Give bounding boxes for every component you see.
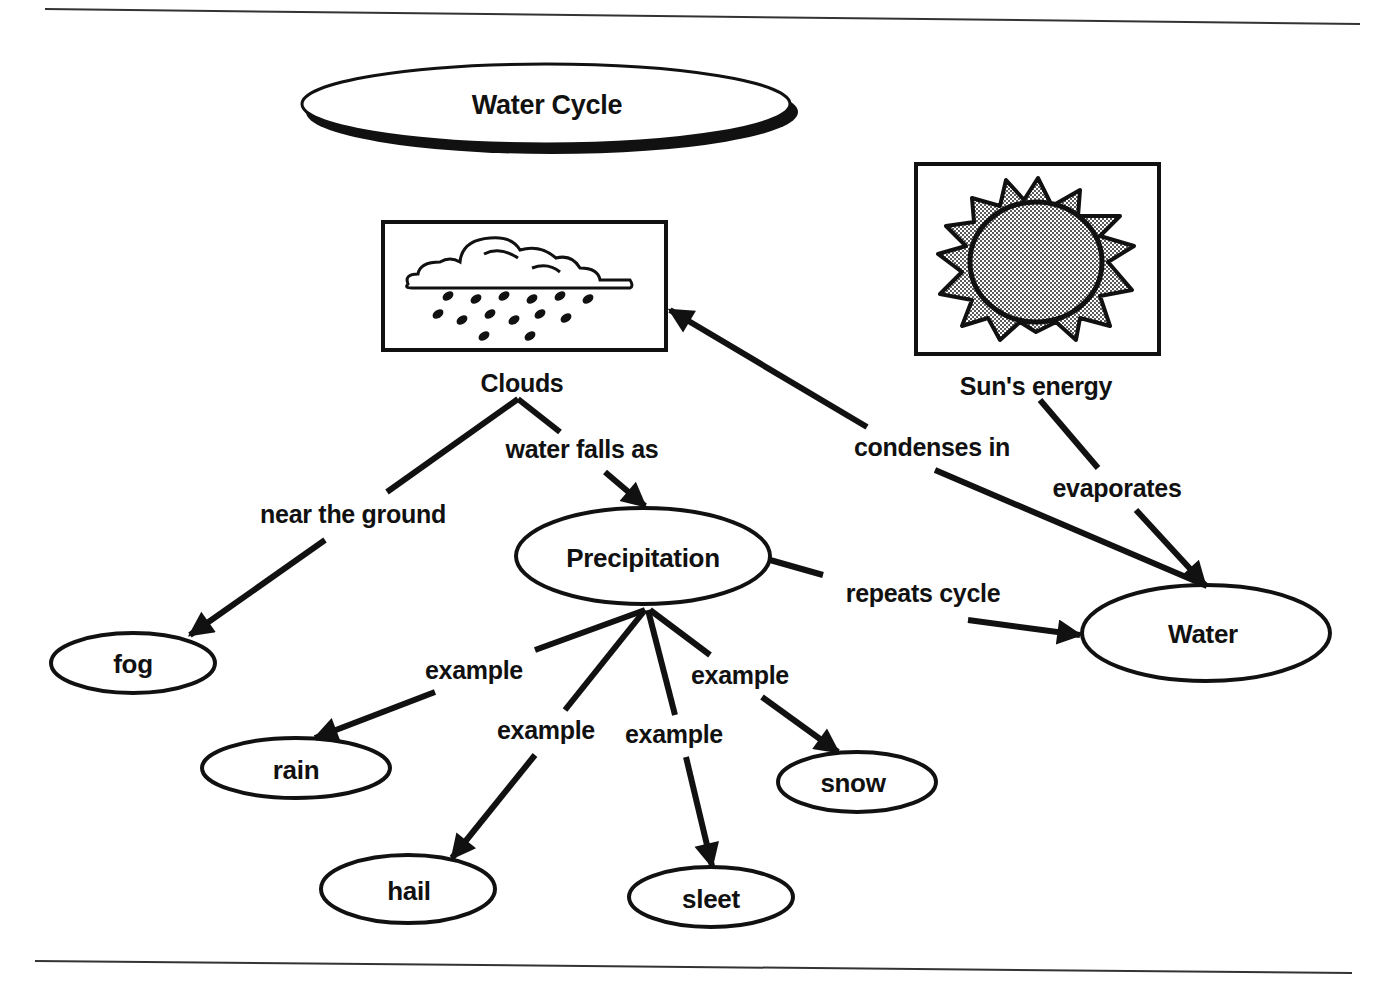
- edge-label-example-hail: example: [497, 718, 595, 743]
- edge-label-example-sleet: example: [625, 722, 723, 747]
- node-fog-label: fog: [113, 651, 153, 677]
- edge-precip-snow-b: [762, 697, 838, 752]
- edge-precip-sleet-b: [686, 757, 712, 866]
- clouds-box: [383, 222, 666, 350]
- diagram-title: Water Cycle: [472, 92, 622, 119]
- edge-clouds-fog-b: [190, 540, 325, 635]
- edge-clouds-precip-b: [605, 472, 645, 506]
- edge-label-evaporates: evaporates: [1052, 476, 1181, 501]
- edge-label-condenses-in: condenses in: [854, 435, 1010, 460]
- node-rain-label: rain: [273, 757, 319, 783]
- node-sleet-label: sleet: [682, 886, 740, 912]
- node-hail-label: hail: [387, 878, 431, 904]
- edge-label-example-rain: example: [425, 658, 523, 683]
- edge-label-repeats-cycle: repeats cycle: [846, 581, 1001, 606]
- edge-clouds-fog-a: [387, 399, 518, 492]
- top-rule: [45, 9, 1360, 24]
- node-sun-label: Sun's energy: [960, 374, 1112, 399]
- edge-precip-water-b: [968, 620, 1080, 635]
- edge-sun-water-a: [1040, 400, 1098, 468]
- edge-label-near-the-ground: near the ground: [260, 502, 446, 527]
- edge-label-water-falls-as: water falls as: [506, 437, 659, 462]
- edge-precip-hail-b: [452, 755, 535, 858]
- bottom-rule: [35, 961, 1352, 973]
- edge-sun-water-b: [1136, 510, 1205, 585]
- edge-water-clouds-b: [670, 310, 867, 427]
- edge-precip-water-a: [770, 560, 823, 575]
- node-clouds-label: Clouds: [481, 371, 564, 396]
- node-water-label: Water: [1168, 621, 1238, 647]
- node-snow-label: snow: [820, 770, 885, 796]
- edge-clouds-precip-a: [518, 399, 560, 432]
- edge-label-example-snow: example: [691, 663, 789, 688]
- edge-precip-rain-b: [315, 692, 435, 738]
- sun-box: [916, 164, 1159, 354]
- node-precipitation-label: Precipitation: [566, 545, 720, 571]
